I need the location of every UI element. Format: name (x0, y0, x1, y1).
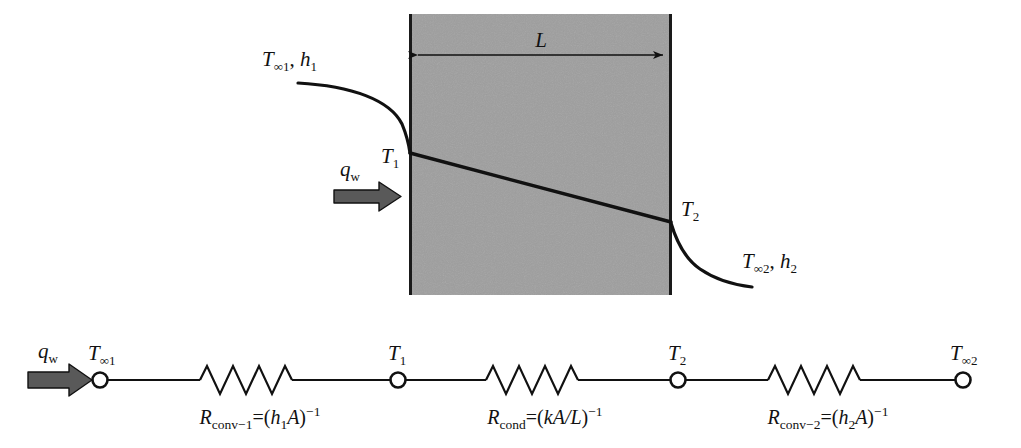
node-label-T-1: T1 (388, 341, 406, 368)
rconv1-paren-close: ) (299, 406, 306, 429)
resistor-zigzag-cond (486, 366, 578, 394)
rconv1-R-subscript: conv−1 (212, 417, 253, 432)
rcond-paren-close: ) (582, 406, 589, 429)
rconv1-area-symbol: A (285, 406, 300, 428)
rcond-exponent: −1 (588, 404, 602, 419)
resistor-zigzag-conv1 (200, 366, 292, 394)
node-T-inf-2 (956, 373, 971, 388)
wall-slab (409, 14, 672, 295)
rconv2-R-symbol: R (767, 406, 780, 428)
qw-q-symbol-network: q (38, 339, 49, 363)
qw-q-symbol-wall: q (340, 157, 351, 181)
heat-transfer-figure: L T∞1, h1 qw T1 (0, 0, 1021, 448)
inlet-T-subscript: ∞1 (274, 59, 290, 74)
node-label-T-2: T2 (668, 341, 686, 368)
rcond-R-symbol: R (486, 406, 499, 428)
outlet-h-symbol: h (780, 249, 791, 273)
resistor-label-R-cond: Rcond=(kA/L)−1 (486, 404, 602, 432)
node-T-inf-2-subscript: ∞2 (962, 353, 978, 368)
svg-text:T∞2, h2: T∞2, h2 (742, 249, 797, 276)
outlet-h-subscript: 2 (790, 261, 797, 276)
rconv1-exponent: −1 (306, 404, 320, 419)
svg-text:T∞1, h1: T∞1, h1 (262, 47, 317, 74)
outlet-T-subscript: ∞2 (754, 261, 770, 276)
inlet-temperature-curve (298, 83, 410, 153)
inlet-h-symbol: h (300, 47, 311, 71)
surface-temp-1-label: T1 (381, 144, 399, 171)
rcond-equals: = (526, 406, 537, 428)
resistor-zigzag-conv2 (768, 366, 860, 394)
heat-flux-label-network: qw (38, 339, 59, 366)
node-label-T-inf-1: T∞1 (88, 341, 115, 368)
rconv1-h-symbol: h (270, 406, 280, 428)
surface-temp-2-label: T2 (681, 197, 699, 224)
qw-w-subscript-network: w (49, 351, 59, 366)
resistor-label-R-conv-2: Rconv−2=(h2A)−1 (767, 404, 889, 432)
inlet-h-subscript: 1 (310, 59, 317, 74)
rconv2-h-subscript: 2 (848, 417, 855, 432)
rconv2-equals: = (820, 406, 831, 428)
heat-flux-arrow-network (28, 364, 92, 396)
heat-flux-label-wall: qw (340, 157, 361, 184)
rconv1-equals: = (252, 406, 263, 428)
node-T-1-subscript: 1 (400, 353, 407, 368)
node-T-1 (391, 373, 406, 388)
rconv2-exponent: −1 (874, 404, 888, 419)
outlet-fluid-label: T∞2, h2 (742, 249, 797, 276)
resistance-network: qw (28, 339, 977, 432)
node-label-T-inf-2: T∞2 (950, 341, 977, 368)
outlet-label-comma: , (769, 249, 780, 273)
node-T-2 (671, 373, 686, 388)
rconv2-h-symbol: h (838, 406, 848, 428)
node-T-2-subscript: 2 (680, 353, 687, 368)
rconv2-paren-close: ) (867, 406, 874, 429)
qw-w-subscript-wall: w (351, 169, 361, 184)
rcond-R-subscript: cond (500, 417, 526, 432)
rconv1-h-subscript: 1 (280, 417, 287, 432)
rcond-area-symbol: A/L (551, 406, 582, 428)
rconv2-area-symbol: A (853, 406, 868, 428)
inlet-label-comma: , (289, 47, 300, 71)
thickness-label: L (534, 28, 547, 52)
rconv2-R-subscript: conv−2 (780, 417, 821, 432)
resistor-label-R-conv-1: Rconv−1=(h1A)−1 (199, 404, 321, 432)
node-T-inf-1-subscript: ∞1 (100, 353, 116, 368)
heat-flux-arrow-wall (334, 182, 401, 211)
T1-subscript-wall: 1 (393, 156, 400, 171)
wall-diagram: L T∞1, h1 qw T1 (262, 14, 797, 295)
node-T-inf-1 (93, 373, 108, 388)
network-wires (108, 366, 955, 394)
T2-subscript-wall: 2 (693, 209, 700, 224)
figure-canvas: L T∞1, h1 qw T1 (0, 0, 1021, 448)
outlet-temperature-curve (671, 223, 752, 287)
inlet-fluid-label: T∞1, h1 (262, 47, 317, 74)
rconv1-R-symbol: R (199, 406, 212, 428)
